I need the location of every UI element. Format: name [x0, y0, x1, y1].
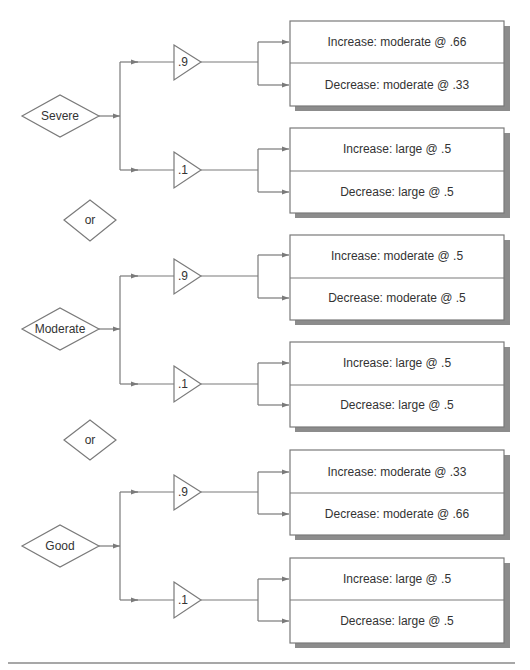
outcome-decrease: Decrease: large @ .5 [340, 614, 454, 628]
outcome-box: Increase: moderate @ .33 Decrease: moder… [290, 450, 510, 540]
group-moderate: Moderate .9 Increase: moderate @ .5 Decr… [22, 235, 510, 432]
outcome-increase: Increase: large @ .5 [343, 356, 452, 370]
probability-label: .1 [178, 593, 188, 607]
or-separator: or [64, 420, 116, 460]
outcome-box: Increase: moderate @ .66 Decrease: moder… [290, 21, 510, 111]
state-label: Good [45, 539, 74, 553]
outcome-decrease: Decrease: large @ .5 [340, 398, 454, 412]
state-node-good: Good [22, 525, 99, 567]
probability-label: .9 [178, 485, 188, 499]
probability-label: .9 [178, 269, 188, 283]
state-node-moderate: Moderate [22, 308, 99, 350]
state-label: Moderate [35, 322, 86, 336]
outcome-increase: Increase: large @ .5 [343, 142, 452, 156]
outcome-increase: Increase: moderate @ .33 [328, 465, 467, 479]
group-severe: Severe .9 Increase: moderate @ .66 Decre… [22, 21, 510, 218]
outcome-increase: Increase: moderate @ .66 [328, 35, 467, 49]
chance-node: .1 [174, 366, 201, 402]
outcome-decrease: Decrease: large @ .5 [340, 185, 454, 199]
chance-node: .9 [174, 45, 201, 80]
chance-node: .9 [174, 259, 201, 294]
chance-node: .9 [174, 475, 201, 510]
chance-node: .1 [174, 152, 201, 188]
probability-label: .9 [178, 55, 188, 69]
or-separator: or [64, 200, 116, 241]
or-label: or [85, 213, 96, 227]
state-label: Severe [41, 109, 79, 123]
outcome-decrease: Decrease: moderate @ .66 [325, 507, 470, 521]
probability-label: .1 [178, 163, 188, 177]
outcome-box: Increase: moderate @ .5 Decrease: modera… [290, 235, 510, 325]
outcome-box: Increase: large @ .5 Decrease: large @ .… [290, 558, 510, 648]
outcome-increase: Increase: large @ .5 [343, 572, 452, 586]
outcome-increase: Increase: moderate @ .5 [331, 249, 464, 263]
probability-label: .1 [178, 377, 188, 391]
state-node-severe: Severe [22, 95, 99, 137]
outcome-decrease: Decrease: moderate @ .5 [328, 291, 466, 305]
outcome-decrease: Decrease: moderate @ .33 [325, 78, 470, 92]
or-label: or [85, 433, 96, 447]
group-good: Good .9 Increase: moderate @ .33 Decreas… [22, 450, 510, 648]
outcome-box: Increase: large @ .5 Decrease: large @ .… [290, 342, 510, 432]
chance-node: .1 [174, 582, 201, 618]
decision-tree-diagram: Severe .9 Increase: moderate @ .66 Decre… [0, 0, 530, 670]
outcome-box: Increase: large @ .5 Decrease: large @ .… [290, 128, 510, 218]
